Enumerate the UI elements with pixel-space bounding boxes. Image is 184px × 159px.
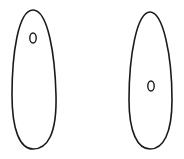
left-cell xyxy=(12,10,56,149)
diagram-canvas xyxy=(0,0,184,159)
left-cell-inner-oval xyxy=(30,33,36,43)
left-cell-outline xyxy=(12,10,56,149)
right-cell xyxy=(129,12,172,149)
right-cell-inner-oval xyxy=(148,81,154,91)
